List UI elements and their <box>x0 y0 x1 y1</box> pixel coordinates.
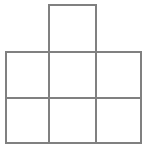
figure-canvas <box>0 0 147 148</box>
lower-mid-square <box>49 98 96 143</box>
polyomino-net-drawing <box>0 0 147 148</box>
lower-right-square <box>96 98 141 143</box>
upper-left-square <box>6 52 49 98</box>
upper-mid-square <box>49 52 96 98</box>
lower-left-square <box>6 98 49 143</box>
top-tab-square <box>49 5 96 52</box>
upper-right-square <box>96 52 141 98</box>
